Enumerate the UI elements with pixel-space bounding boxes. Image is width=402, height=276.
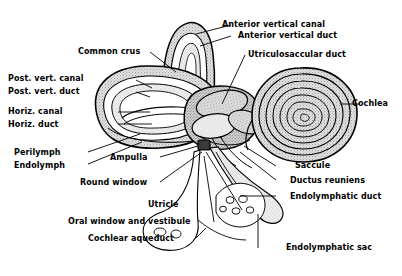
- label-oral-window-and-vestibule: Oral window and vestibule: [68, 217, 191, 226]
- label-saccule: Saccule: [295, 161, 330, 170]
- inner-ear-diagram: Anterior vertical canal Anterior vertica…: [0, 0, 402, 276]
- label-cochlea: Cochlea: [352, 99, 388, 108]
- label-post-vert-canal: Post. vert. canal: [8, 74, 84, 83]
- label-ampulla: Ampulla: [110, 153, 148, 162]
- label-perilymph: Perilymph: [14, 148, 61, 157]
- label-post-vert-duct: Post. vert. duct: [8, 87, 80, 96]
- labyrinth-illustration: [0, 0, 402, 276]
- label-common-crus: Common crus: [78, 47, 140, 56]
- label-horiz-duct: Horiz. duct: [8, 120, 58, 129]
- label-endolymphatic-sac: Endolymphatic sac: [286, 243, 372, 252]
- label-anterior-vertical-duct: Anterior vertical duct: [238, 31, 337, 40]
- label-round-window: Round window: [80, 178, 147, 187]
- label-endolymphatic-duct: Endolymphatic duct: [290, 192, 381, 201]
- label-horiz-canal: Horiz. canal: [8, 107, 63, 116]
- label-anterior-vertical-canal: Anterior vertical canal: [222, 20, 325, 29]
- label-cochlear-aqueduct: Cochlear aqueduct: [88, 234, 174, 243]
- label-ductus-reuniens: Ductus reuniens: [290, 176, 365, 185]
- label-utriculosaccular-duct: Utriculosaccular duct: [248, 50, 346, 59]
- cochlea-spiral-shape: [246, 68, 357, 162]
- label-utricle: Utricle: [148, 200, 179, 209]
- round-window-shape: [198, 140, 210, 150]
- label-endolymph: Endolymph: [14, 161, 65, 170]
